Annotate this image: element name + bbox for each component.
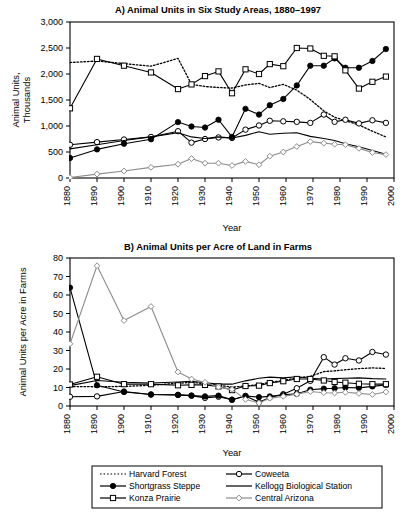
data-point-marker <box>121 382 126 387</box>
data-point-marker <box>202 160 208 166</box>
data-point-marker <box>294 119 299 124</box>
data-point-marker <box>294 83 299 88</box>
x-axis-label: Year <box>223 222 242 233</box>
data-point-marker <box>121 63 126 68</box>
data-point-marker <box>294 144 300 150</box>
y-tick-label: 2,500 <box>40 43 63 53</box>
series-layer <box>67 263 389 406</box>
y-tick-label: 2,000 <box>40 69 63 79</box>
chart-title: B) Animal Units per Acre of Land in Farm… <box>124 241 312 252</box>
data-point-marker <box>343 68 348 73</box>
data-point-marker <box>243 383 248 388</box>
series-line <box>70 58 386 137</box>
y-axis-label: Animal Units,Thousands <box>10 72 32 127</box>
data-point-marker <box>243 158 249 164</box>
data-point-marker <box>383 46 388 51</box>
y-tick-label: 0 <box>58 173 63 183</box>
x-tick-label: 1900 <box>116 414 126 434</box>
data-point-marker <box>189 82 194 87</box>
chart-panel-b: B) Animal Units per Acre of Land in Farm… <box>0 238 408 462</box>
data-point-marker <box>148 70 153 75</box>
data-point-marker <box>308 63 313 68</box>
data-point-marker <box>307 139 313 145</box>
data-point-marker <box>343 117 348 122</box>
data-point-marker <box>189 124 194 129</box>
y-tick-label: 40 <box>53 327 63 337</box>
legend-label: Kellogg Biological Station <box>255 481 352 491</box>
data-point-marker <box>356 121 361 126</box>
svg-text:Thousands: Thousands <box>21 76 32 123</box>
x-tick-label: 1880 <box>62 414 72 434</box>
y-tick-label: 3,000 <box>40 17 63 27</box>
series-line <box>70 132 386 155</box>
x-tick-label: 1940 <box>224 186 234 206</box>
data-point-marker <box>121 389 126 394</box>
data-point-marker <box>280 149 286 155</box>
data-point-marker <box>308 46 313 51</box>
data-point-marker <box>281 379 286 384</box>
data-point-marker <box>67 142 72 147</box>
data-point-marker <box>67 155 72 160</box>
x-tick-label: 1880 <box>62 186 72 206</box>
data-point-marker <box>356 381 361 386</box>
data-point-marker <box>94 374 99 379</box>
data-point-marker <box>121 168 127 174</box>
data-point-marker <box>383 120 388 125</box>
x-tick-label: 1890 <box>89 414 99 434</box>
legend-box: Harvard ForestCoweetaShortgrass SteppeKe… <box>0 462 408 519</box>
y-tick-label: 1,000 <box>40 121 63 131</box>
chart-panel-a: A) Animal Units in Six Study Areas, 1880… <box>0 0 408 236</box>
data-point-marker <box>321 378 326 383</box>
data-point-marker <box>267 62 272 67</box>
legend-label: Coweeta <box>255 469 289 479</box>
x-tick-label: 1920 <box>170 414 180 434</box>
data-point-marker <box>267 118 272 123</box>
x-tick-label: 1920 <box>170 186 180 206</box>
series-konza-prairie <box>67 45 388 111</box>
data-point-marker <box>370 349 375 354</box>
data-point-marker <box>356 86 361 91</box>
data-point-marker <box>94 171 100 177</box>
data-point-marker <box>370 58 375 63</box>
data-point-marker <box>332 54 337 59</box>
data-point-marker <box>332 119 337 124</box>
data-point-marker <box>229 134 234 139</box>
data-point-marker <box>332 390 338 396</box>
x-tick-label: 1960 <box>278 414 288 434</box>
y-tick-label: 80 <box>53 253 63 263</box>
y-tick-label: 10 <box>53 383 63 393</box>
data-point-marker <box>175 86 180 91</box>
data-point-marker <box>383 352 388 357</box>
legend-label: Central Arizona <box>255 493 314 503</box>
data-point-marker <box>94 147 99 152</box>
data-point-marker <box>383 74 388 79</box>
data-point-marker <box>308 376 313 381</box>
data-point-marker <box>121 141 126 146</box>
x-tick-label: 1980 <box>332 186 342 206</box>
data-point-marker <box>202 394 207 399</box>
y-tick-label: 30 <box>53 346 63 356</box>
y-tick-label: 1,500 <box>40 95 63 105</box>
data-point-marker <box>94 383 99 388</box>
x-axis-label: Year <box>223 447 242 458</box>
data-point-marker <box>243 67 248 72</box>
y-tick-label: 0 <box>58 401 63 411</box>
legend-label: Harvard Forest <box>129 469 187 479</box>
data-point-marker <box>356 358 361 363</box>
svg-text:Animal Units,: Animal Units, <box>10 72 21 127</box>
x-tick-label: 1970 <box>305 414 315 434</box>
data-point-marker <box>148 304 154 310</box>
data-point-marker <box>383 389 389 395</box>
x-tick-label: 1990 <box>359 414 369 434</box>
legend-label: Konza Prairie <box>129 493 181 503</box>
y-axis-label: Animal Units per Acre in Farms <box>17 267 28 397</box>
figure-root: A) Animal Units in Six Study Areas, 1880… <box>0 0 408 519</box>
data-point-marker <box>294 45 299 50</box>
data-point-marker <box>175 119 180 124</box>
series-coweeta <box>67 349 388 405</box>
data-point-marker <box>67 382 72 387</box>
data-point-marker <box>67 285 72 290</box>
data-point-marker <box>332 379 337 384</box>
x-tick-label: 1910 <box>143 414 153 434</box>
data-point-marker <box>321 140 327 146</box>
